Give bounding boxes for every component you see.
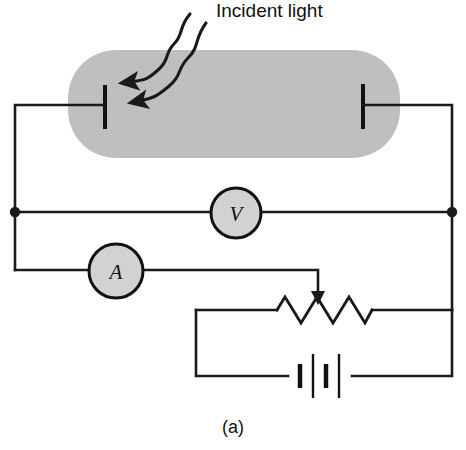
wire-ammeter-to-wiper [143, 270, 318, 293]
junction-dot-left [10, 207, 20, 217]
photocell-body [68, 50, 400, 158]
battery-symbol [300, 354, 339, 398]
voltmeter-label: V [230, 202, 245, 226]
rheostat-zigzag [277, 297, 372, 323]
junction-dot-right [447, 207, 457, 217]
ammeter-label: A [108, 260, 123, 284]
figure-container: V A Incident light (a) [0, 0, 466, 450]
photoconductive-cell [68, 50, 400, 158]
incident-light-label: Incident light [216, 0, 323, 22]
circuit-diagram: V A [0, 0, 466, 450]
figure-caption: (a) [0, 417, 466, 438]
voltmeter: V [211, 188, 261, 238]
wire-battery-left [196, 310, 288, 376]
ammeter: A [89, 244, 143, 298]
